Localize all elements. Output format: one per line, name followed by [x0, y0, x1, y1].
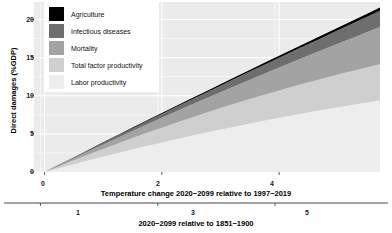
legend-label: Agriculture [71, 11, 104, 18]
legend-label: Total factor productivity [71, 62, 143, 69]
legend-swatch-icon [49, 41, 64, 55]
legend-swatch-icon [49, 75, 64, 89]
legend-item: Mortality [49, 40, 97, 56]
x-tick-label: 4 [262, 180, 282, 187]
x-axis-title-secondary: 2020−2099 relative to 1851−1900 [0, 219, 392, 228]
legend-swatch-icon [49, 58, 64, 72]
legend-swatch-icon [49, 24, 64, 38]
chart-legend: Agriculture Infectious diseases Mortalit… [44, 2, 159, 92]
x-tick-label-secondary: 3 [183, 209, 203, 216]
x-tick-label-secondary: 5 [297, 209, 317, 216]
legend-item: Labor productivity [49, 74, 126, 90]
legend-item: Agriculture [49, 6, 104, 22]
chart-figure: 0 5 10 15 20 0 2 4 Temperature change 20… [0, 0, 392, 233]
x-tick-label: 2 [148, 180, 168, 187]
x-tick-label-secondary: 1 [68, 209, 88, 216]
y-axis-title: Direct damages (%GDP) [9, 16, 18, 166]
legend-label: Infectious diseases [71, 28, 131, 35]
legend-label: Labor productivity [71, 79, 126, 86]
x-axis-title: Temperature change 2020−2099 relative to… [0, 189, 392, 198]
legend-item: Infectious diseases [49, 23, 131, 39]
legend-label: Mortality [71, 45, 97, 52]
legend-item: Total factor productivity [49, 57, 143, 73]
y-tick-label: 0 [14, 168, 34, 175]
legend-swatch-icon [49, 7, 64, 21]
x-tick-label: 0 [33, 180, 53, 187]
